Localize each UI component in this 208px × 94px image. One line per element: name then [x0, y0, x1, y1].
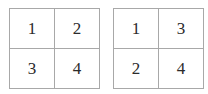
left-matrix: 1 2 3 4 — [9, 8, 100, 89]
cell-r1c0: 3 — [10, 49, 55, 89]
table-row: 3 4 — [10, 49, 100, 89]
right-matrix: 1 3 2 4 — [113, 8, 204, 89]
cell-r0c0: 1 — [10, 9, 55, 49]
cell-r0c1: 3 — [159, 9, 204, 49]
cell-r1c1: 4 — [159, 49, 204, 89]
cell-r0c0: 1 — [114, 9, 159, 49]
table-row: 2 4 — [114, 49, 204, 89]
diagram-canvas: 1 2 3 4 1 3 2 4 — [0, 0, 208, 94]
cell-r1c0: 2 — [114, 49, 159, 89]
cell-r0c1: 2 — [55, 9, 100, 49]
table-row: 1 2 — [10, 9, 100, 49]
table-row: 1 3 — [114, 9, 204, 49]
cell-r1c1: 4 — [55, 49, 100, 89]
